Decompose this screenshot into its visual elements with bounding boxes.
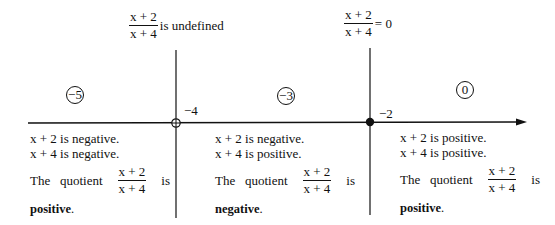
- numerator-sign-text: x + 2 is positive.: [400, 130, 550, 145]
- period: .: [441, 201, 444, 215]
- denominator: x + 4: [118, 181, 147, 196]
- numerator: x + 2: [303, 165, 332, 181]
- quotient-line: The quotient x + 2 x + 4 is: [30, 165, 170, 196]
- period: .: [71, 202, 74, 216]
- fraction: x + 2 x + 4: [488, 164, 517, 195]
- numerator: x + 2: [129, 10, 158, 26]
- test-value-circle: −5: [66, 86, 84, 104]
- verdict: positive.: [30, 202, 180, 217]
- denominator: x + 4: [344, 24, 373, 39]
- numerator: x + 2: [344, 8, 373, 24]
- critical-point-label: −2: [379, 106, 393, 122]
- test-value-circle: −3: [277, 87, 295, 105]
- fraction: x + 2 x + 4: [303, 165, 332, 196]
- numerator-sign-text: x + 2 is negative.: [30, 131, 180, 146]
- region-left: x + 2 is negative. x + 4 is negative. Th…: [30, 131, 180, 217]
- quotient-prefix: The quotient: [215, 173, 288, 188]
- fraction: x + 2 x + 4: [118, 165, 147, 196]
- denominator: x + 4: [488, 180, 517, 195]
- number-line-axis: [28, 122, 520, 123]
- quotient-suffix: is: [161, 173, 170, 188]
- verdict: negative.: [215, 202, 365, 217]
- verdict-text: positive: [400, 201, 441, 215]
- fraction: x + 2 x + 4: [129, 10, 158, 41]
- undefined-text: is undefined: [160, 18, 224, 34]
- denominator: x + 4: [129, 26, 158, 41]
- test-value-circle: 0: [456, 81, 474, 99]
- quotient-suffix: is: [531, 172, 540, 187]
- undefined-label: x + 2 x + 4 is undefined: [129, 10, 224, 41]
- quotient-line: The quotient x + 2 x + 4 is: [400, 164, 540, 195]
- denominator: x + 4: [303, 181, 332, 196]
- denominator-sign-text: x + 4 is positive.: [215, 146, 365, 161]
- equals-zero-text: = 0: [375, 16, 392, 32]
- zero-label: x + 2 x + 4 = 0: [344, 8, 392, 39]
- verdict: positive.: [400, 201, 550, 216]
- test-value: −5: [68, 87, 82, 103]
- quotient-prefix: The quotient: [30, 173, 103, 188]
- verdict-text: positive: [30, 202, 71, 216]
- denominator-sign-text: x + 4 is positive.: [400, 145, 550, 160]
- filled-dot-marker: [366, 118, 374, 126]
- region-right: x + 2 is positive. x + 4 is positive. Th…: [400, 130, 550, 216]
- test-value: 0: [462, 82, 469, 98]
- numerator: x + 2: [118, 165, 147, 181]
- quotient-prefix: The quotient: [400, 172, 473, 187]
- test-value: −3: [279, 88, 293, 104]
- quotient-line: The quotient x + 2 x + 4 is: [215, 165, 355, 196]
- denominator-sign-text: x + 4 is negative.: [30, 146, 180, 161]
- region-middle: x + 2 is negative. x + 4 is positive. Th…: [215, 131, 365, 217]
- numerator-sign-text: x + 2 is negative.: [215, 131, 365, 146]
- period: .: [259, 202, 262, 216]
- fraction: x + 2 x + 4: [344, 8, 373, 39]
- numerator: x + 2: [488, 164, 517, 180]
- arrow-right-icon: [516, 119, 527, 126]
- quotient-suffix: is: [346, 173, 355, 188]
- critical-point-label: −4: [184, 103, 198, 119]
- verdict-text: negative: [215, 202, 259, 216]
